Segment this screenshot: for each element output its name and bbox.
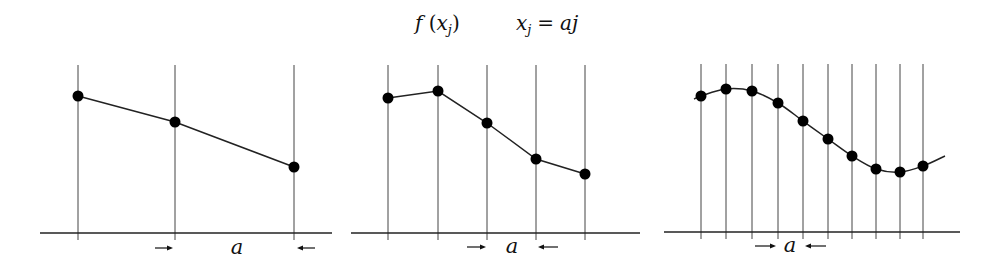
left-arrowhead-icon xyxy=(538,245,544,250)
sample-point xyxy=(531,154,542,165)
sample-point xyxy=(383,93,394,104)
function-curve xyxy=(694,89,945,173)
sample-point xyxy=(918,161,929,172)
sample-point xyxy=(73,91,84,102)
sample-point xyxy=(170,117,181,128)
right-arrowhead-icon xyxy=(167,246,173,251)
function-label: f (xj) xyxy=(413,11,460,37)
spacing-indicator: a xyxy=(467,234,558,258)
spacing-indicator: a xyxy=(155,235,315,259)
sample-point xyxy=(871,164,882,175)
spacing-label: a xyxy=(506,234,519,258)
sample-point xyxy=(289,162,300,173)
lattice-definition: xj=aj xyxy=(516,11,578,37)
sample-point xyxy=(747,86,758,97)
spacing-label: a xyxy=(231,235,244,259)
panel-fine: a xyxy=(664,64,960,257)
sample-point xyxy=(773,98,784,109)
left-arrowhead-icon xyxy=(805,244,811,249)
left-arrowhead-icon xyxy=(297,246,303,251)
function-curve xyxy=(78,96,294,167)
figure-title: f (xj) xj=aj xyxy=(413,11,578,37)
sample-point xyxy=(580,169,591,180)
panel-coarse: a xyxy=(40,65,332,259)
lattice-discretization-diagram: f (xj) xj=aj aaa xyxy=(0,0,984,276)
sample-point xyxy=(847,151,858,162)
spacing-indicator: a xyxy=(755,233,826,257)
right-arrowhead-icon xyxy=(770,244,776,249)
panel-medium: a xyxy=(351,65,640,258)
spacing-label: a xyxy=(784,233,797,257)
sample-point xyxy=(721,84,732,95)
right-arrowhead-icon xyxy=(480,245,486,250)
sample-point xyxy=(482,118,493,129)
sample-point xyxy=(433,86,444,97)
sample-point xyxy=(823,134,834,145)
sample-point xyxy=(798,116,809,127)
sample-point xyxy=(696,91,707,102)
sample-point xyxy=(895,167,906,178)
